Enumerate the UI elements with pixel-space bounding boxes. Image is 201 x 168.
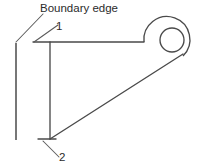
drawing-canvas	[0, 0, 201, 168]
diagonal-rib-line	[50, 54, 183, 139]
leader-line-point-2	[43, 141, 59, 157]
leader-line-point-1	[34, 25, 58, 42]
point-2-label: 2	[59, 152, 65, 164]
leader-line-boundary-edge	[16, 14, 43, 42]
hub-inner-bore-circle	[160, 28, 184, 52]
technical-drawing-figure: Boundary edge 1 2	[0, 0, 201, 168]
boundary-edge-label: Boundary edge	[40, 3, 118, 15]
point-1-label: 1	[56, 21, 62, 33]
